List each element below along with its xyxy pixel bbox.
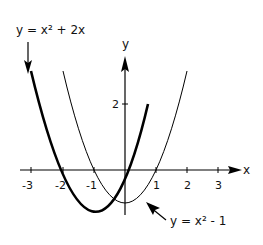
x-tick-neg3: -3 <box>22 179 33 192</box>
x-tick-neg2: -2 <box>55 179 66 192</box>
graph-canvas: y x -3 -2 -1 1 2 3 2 y = x² + 2x y = x² … <box>0 0 263 245</box>
curve1-label: y = x² + 2x <box>16 23 85 37</box>
curve2-label: y = x² - 1 <box>170 214 226 228</box>
x-tick-2: 2 <box>184 179 191 192</box>
y-axis <box>121 56 129 215</box>
x-axis-label: x <box>243 163 250 177</box>
y-axis-label: y <box>122 37 129 51</box>
x-tick-neg1: -1 <box>86 179 97 192</box>
x-tick-1: 1 <box>153 179 160 192</box>
x-axis-arrow-icon <box>228 166 242 174</box>
curve1-pointer-arrow-icon <box>24 42 32 74</box>
x-tick-3: 3 <box>215 179 222 192</box>
curve2-pointer-arrow-icon <box>146 202 166 220</box>
y-tick-2: 2 <box>112 98 119 111</box>
